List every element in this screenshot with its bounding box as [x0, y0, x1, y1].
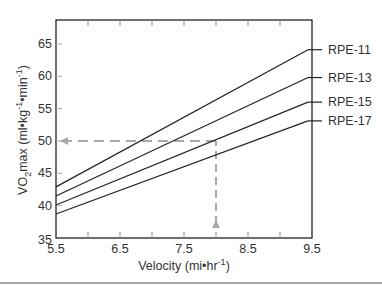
direct-labels: RPE-11RPE-13RPE-15RPE-17: [308, 43, 372, 128]
series-line-rpe-17: [56, 121, 308, 214]
arrow-up-icon: [212, 220, 220, 228]
series-line-rpe-15: [56, 102, 308, 205]
series-lines: [56, 50, 308, 214]
y-tick-label: 55: [38, 102, 52, 116]
y-tick-label: 60: [38, 69, 52, 83]
x-axis-title: Velocity (mi•hr-1): [138, 257, 230, 273]
y-tick-label: 45: [38, 166, 52, 180]
series-label: RPE-13: [328, 71, 372, 85]
series-label: RPE-17: [328, 114, 372, 128]
x-tick-label: 7.5: [175, 242, 192, 256]
x-tick-label: 8.5: [239, 242, 256, 256]
y-axis-title: VO2max (ml•kg-1•min-1): [14, 65, 33, 195]
series-label: RPE-15: [328, 95, 372, 109]
series-label: RPE-11: [328, 43, 371, 57]
arrow-left-icon: [60, 137, 68, 145]
y-tick-label: 35: [38, 233, 52, 247]
y-tick-label: 40: [38, 199, 52, 213]
plot-border: [56, 20, 312, 238]
x-tick-label: 9.5: [303, 242, 320, 256]
vo2max-chart: 5.56.57.58.59.535404550556065 RPE-11RPE-…: [0, 0, 382, 285]
series-line-rpe-11: [56, 50, 308, 187]
y-tick-label: 50: [38, 134, 52, 148]
series-line-rpe-13: [56, 78, 308, 196]
x-tick-label: 6.5: [111, 242, 128, 256]
y-tick-label: 65: [38, 37, 52, 51]
plot-frame: [56, 20, 312, 238]
